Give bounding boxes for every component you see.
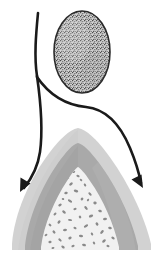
- ovoid-group: [52, 10, 114, 96]
- arrow-right-head: [132, 175, 144, 189]
- arrow-stem-path: [35, 13, 38, 76]
- diagram-svg: [0, 0, 163, 258]
- ovoid-texture-overlay: [52, 10, 114, 96]
- figure-canvas: Stippled ovoid structure with two curved…: [0, 0, 163, 258]
